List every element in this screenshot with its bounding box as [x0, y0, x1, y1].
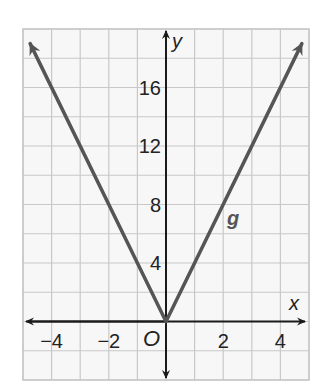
- y-axis-label: y: [170, 30, 183, 52]
- x-tick-label: −2: [97, 330, 120, 352]
- x-axis-label: x: [288, 292, 300, 314]
- y-tick-label: 8: [150, 194, 161, 216]
- x-tick-label: −4: [40, 330, 63, 352]
- origin-label: O: [143, 326, 160, 351]
- x-tick-label: 2: [218, 330, 229, 352]
- y-tick-label: 12: [139, 135, 161, 157]
- x-tick-label: 4: [275, 330, 286, 352]
- absolute-value-graph: −4−224481216 x y O g: [0, 0, 325, 392]
- function-label-g: g: [226, 207, 239, 229]
- y-tick-label: 16: [139, 77, 161, 99]
- y-tick-label: 4: [150, 252, 161, 274]
